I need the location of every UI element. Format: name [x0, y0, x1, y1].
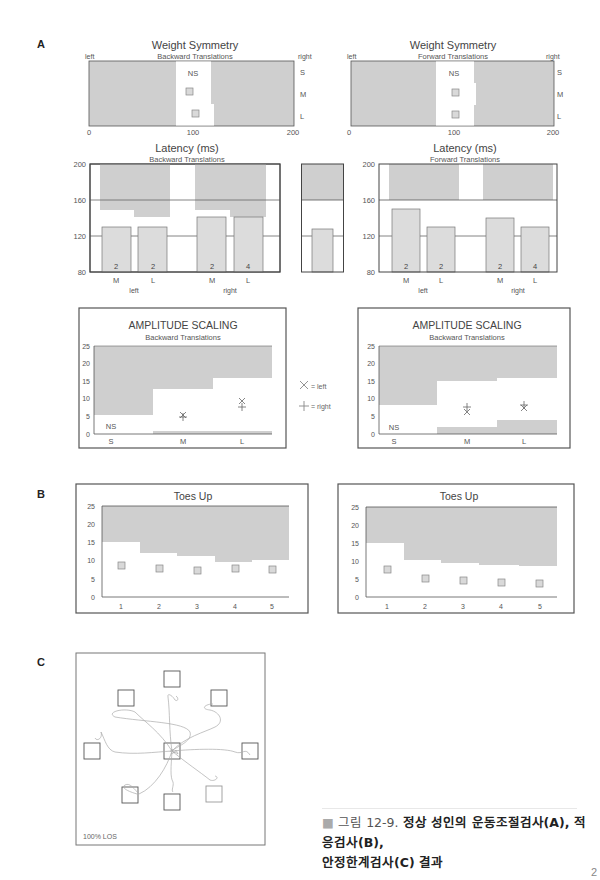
- los-label: 100% LOS: [83, 833, 117, 840]
- y-tick: 10: [367, 395, 375, 402]
- bar-label: M: [403, 276, 409, 285]
- data-point-5: [536, 580, 543, 587]
- y-tick: 160: [73, 196, 86, 205]
- weight-symmetry-backward-chart: Weight Symmetry Backward Translations le…: [80, 30, 320, 142]
- y-tick: 20: [367, 360, 375, 367]
- chart-subtitle: Backward Translations: [145, 333, 221, 342]
- group-label-right: right: [511, 287, 525, 295]
- weight-symmetry-forward-chart: Weight Symmetry Forward Translations lef…: [340, 30, 580, 142]
- x-label: 2: [157, 603, 161, 610]
- caption-marker-icon: ■: [322, 815, 334, 830]
- plus-marker-icon: [299, 401, 309, 411]
- data-point-m: [452, 89, 459, 96]
- legend-right: = right: [311, 403, 331, 411]
- section-label-a: A: [37, 38, 45, 50]
- figure-caption: ■ 그림 12-9. 정상 성인의 운동조절검사(A), 적응검사(B), 안정…: [322, 813, 592, 873]
- caption-divider: [322, 808, 577, 809]
- bar-count: 2: [210, 262, 214, 271]
- chart-subtitle: Forward Translations: [430, 155, 500, 164]
- y-tick: 10: [82, 395, 90, 402]
- x-label: M: [464, 437, 470, 446]
- row-label-l: L: [557, 112, 561, 121]
- section-label-c: C: [37, 656, 45, 668]
- bar-count: 2: [498, 262, 502, 271]
- bar-count: 4: [533, 262, 537, 271]
- chart-title: Toes Up: [174, 490, 213, 502]
- y-tick: 15: [367, 378, 375, 385]
- ns-label: NS: [389, 423, 399, 432]
- x-label: 3: [461, 603, 465, 610]
- amplitude-scaling-right-chart: AMPLITUDE SCALING Backward Translations …: [357, 307, 572, 450]
- row-label-s: S: [300, 68, 305, 77]
- y-tick: 120: [362, 232, 375, 241]
- y-tick: 25: [367, 343, 375, 350]
- bar-count: 4: [246, 262, 250, 271]
- bar-label: L: [533, 276, 537, 285]
- y-tick: 20: [82, 360, 90, 367]
- chart-subtitle: Backward Translations: [429, 333, 505, 342]
- y-tick: 200: [362, 160, 375, 169]
- left-label: left: [85, 53, 94, 60]
- y-tick: 160: [362, 196, 375, 205]
- data-point-4: [232, 565, 239, 572]
- ns-label: NS: [188, 69, 198, 78]
- toes-up-left-chart: Toes Up 25 20 15 10 5 0 1 2 3 4 5: [75, 483, 310, 615]
- ns-label: NS: [106, 422, 116, 431]
- group-label-left: left: [418, 287, 427, 294]
- bar-count: 2: [151, 262, 155, 271]
- chart-title: Latency (ms): [433, 142, 497, 154]
- x-label: 3: [195, 603, 199, 610]
- data-point-l: [192, 110, 199, 117]
- y-tick: 0: [91, 594, 95, 601]
- bar-label: M: [497, 276, 503, 285]
- bar-count: 2: [404, 262, 408, 271]
- x-label: 2: [423, 603, 427, 610]
- bar-composite: [312, 229, 333, 272]
- y-tick: 0: [86, 431, 90, 438]
- x-tick: 0: [347, 128, 351, 137]
- chart-title: Weight Symmetry: [410, 39, 497, 51]
- x-label: 4: [233, 603, 237, 610]
- latency-forward-chart: Latency (ms) Forward Translations 2 2 2 …: [355, 135, 585, 305]
- bar-label: L: [246, 276, 250, 285]
- legend-left: = left: [311, 383, 326, 390]
- y-tick: 10: [87, 557, 95, 564]
- x-label: L: [240, 437, 244, 446]
- chart-subtitle: Backward Translations: [157, 52, 233, 61]
- section-label-b: B: [37, 488, 45, 500]
- row-label-m: M: [557, 90, 563, 99]
- y-tick: 20: [351, 522, 359, 529]
- data-point-1: [384, 566, 391, 573]
- data-point-l: [452, 111, 459, 118]
- caption-figure-number: 그림 12-9.: [338, 815, 398, 830]
- left-label: left: [347, 53, 356, 60]
- ns-label: NS: [449, 69, 459, 78]
- bar-count: 2: [439, 262, 443, 271]
- y-tick: 25: [87, 503, 95, 510]
- data-point-3: [460, 577, 467, 584]
- bar-label: M: [113, 276, 119, 285]
- bar-label: L: [151, 276, 155, 285]
- data-point-2: [422, 575, 429, 582]
- x-label: S: [108, 437, 113, 446]
- chart-subtitle: Forward Translations: [418, 52, 488, 61]
- y-tick: 5: [371, 413, 375, 420]
- y-tick: 200: [73, 160, 86, 169]
- limits-of-stability-chart: 100% LOS: [75, 652, 267, 847]
- latency-composite-chart: [300, 160, 345, 275]
- row-label-m: M: [300, 90, 306, 99]
- y-tick: 5: [91, 576, 95, 583]
- chart-title: Latency (ms): [155, 142, 219, 154]
- page-number: 2: [591, 866, 597, 878]
- x-label: 5: [270, 603, 274, 610]
- y-tick: 15: [82, 378, 90, 385]
- bar-label: M: [209, 276, 215, 285]
- right-label: right: [546, 53, 560, 61]
- y-tick: 15: [351, 540, 359, 547]
- x-label: 4: [499, 603, 503, 610]
- right-label: right: [298, 53, 312, 61]
- y-tick: 5: [355, 576, 359, 583]
- x-label: M: [180, 437, 186, 446]
- y-tick: 80: [78, 268, 86, 277]
- x-marker-icon: [300, 381, 308, 389]
